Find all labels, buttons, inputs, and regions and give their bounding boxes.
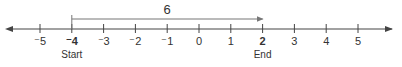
end-label: End (254, 49, 272, 60)
start-label: Start (61, 49, 82, 60)
tick-label: ⁻2 (129, 35, 141, 47)
tick-label: 5 (355, 35, 361, 47)
tick-label: 4 (323, 35, 329, 47)
tick-label: ⁻1 (161, 35, 173, 47)
tick-label: ⁻3 (98, 35, 110, 47)
tick-label: 0 (196, 35, 202, 47)
tick-label: 3 (291, 35, 297, 47)
tick-label: ⁻4 (66, 35, 79, 47)
axis-left-arrow-icon (5, 26, 13, 32)
jump-distance-label: 6 (164, 2, 171, 17)
number-line-diagram: ⁻5⁻4⁻3⁻2⁻1012345 6StartEnd (0, 0, 402, 67)
tick-label: ⁻5 (34, 35, 46, 47)
tick-label: 1 (228, 35, 234, 47)
tick-label: 2 (260, 35, 266, 47)
